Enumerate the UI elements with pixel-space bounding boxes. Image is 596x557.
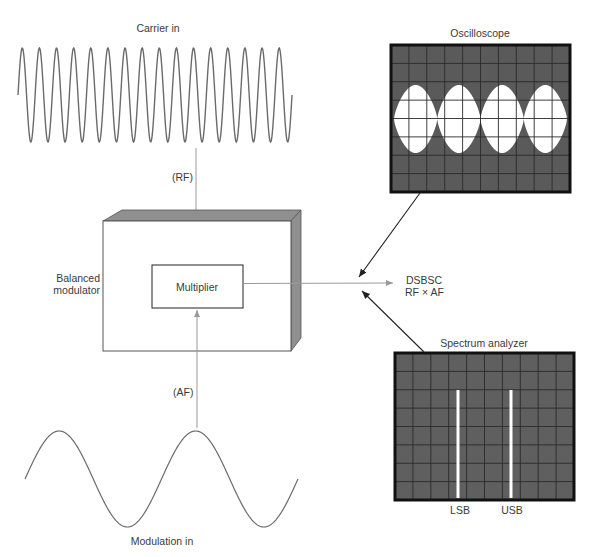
carrier-in-label: Carrier in [136,22,179,34]
dsbsc-label-line2: RF × AF [405,286,444,298]
balanced-modulator-label: Balanced modulator [38,272,100,296]
balanced-modulator-label-line2: modulator [38,284,100,296]
lsb-label: LSB [450,504,470,516]
spectrum-analyzer-screen [395,353,574,500]
usb-label: USB [501,504,523,516]
dsbsc-output-label: DSBSC RF × AF [405,274,444,298]
rf-label: (RF) [172,171,193,183]
spectrum-analyzer-title: Spectrum analyzer [440,337,528,349]
af-label: (AF) [173,386,193,398]
oscilloscope-pointer-arrow [359,193,420,277]
box-top-face [103,210,301,221]
carrier-waveform [18,48,292,142]
output-wire [243,283,393,284]
balanced-modulator-label-line1: Balanced [38,272,100,284]
modulation-in-label: Modulation in [131,535,193,547]
spectrum-pointer-arrow [362,291,424,352]
oscilloscope-screen [391,45,570,192]
dsbsc-label-line1: DSBSC [405,274,444,286]
modulation-waveform [25,431,298,527]
box-side-face [291,210,301,351]
oscilloscope-title: Oscilloscope [450,27,510,39]
multiplier-label: Multiplier [176,281,218,293]
